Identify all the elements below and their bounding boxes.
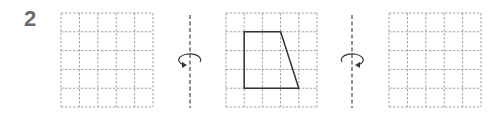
trapezoid-shape xyxy=(244,32,299,88)
diagram-canvas xyxy=(0,0,503,114)
left-grid xyxy=(61,13,153,107)
rotation-axis-left xyxy=(179,15,201,108)
rotation-axis-right xyxy=(341,15,363,108)
right-grid xyxy=(389,13,481,107)
middle-grid xyxy=(226,13,317,107)
